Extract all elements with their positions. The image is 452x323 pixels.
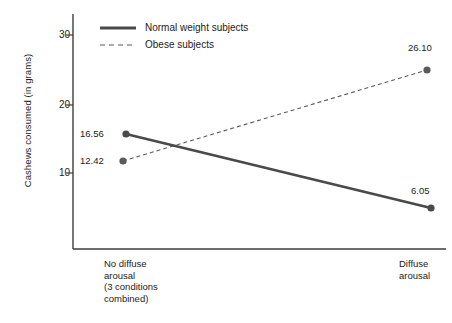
value-label-obese-left: 12.42 xyxy=(80,155,104,166)
data-point-normal-weight-left xyxy=(122,130,129,137)
series-line-normal-weight-subjects xyxy=(126,134,431,208)
value-label-obese-right: 26.10 xyxy=(408,42,432,53)
line-chart: Cashews consumed (in grams) 30 20 10 Nor… xyxy=(0,0,452,323)
value-label-normal-weight-right: 6.05 xyxy=(411,185,430,196)
value-label-normal-weight-left: 16.56 xyxy=(80,128,104,139)
legend-label-obese-subjects: Obese subjects xyxy=(145,39,214,50)
x-category-label-diffuse-arousal: Diffuse arousal xyxy=(399,258,430,281)
data-point-normal-weight-right xyxy=(427,204,434,211)
series-line-obese-subjects xyxy=(123,70,427,161)
legend-label-normal-weight-subjects: Normal weight subjects xyxy=(145,22,248,33)
plot-area xyxy=(0,0,452,323)
data-point-obese-right xyxy=(423,66,430,73)
data-point-obese-left xyxy=(119,157,126,164)
x-category-label-no-diffuse-arousal: No diffuse arousal (3 conditions combine… xyxy=(104,258,158,304)
